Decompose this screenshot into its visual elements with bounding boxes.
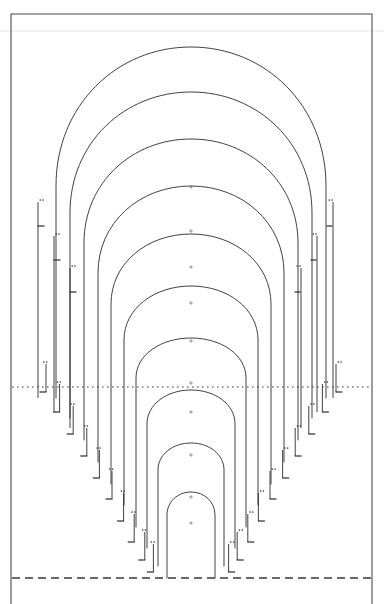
outer-bracket-dot-a-6 (299, 265, 300, 266)
label-dot-b-3-right (313, 403, 314, 404)
outer-bracket-dot-b-1 (42, 199, 43, 200)
outer-bracket-dot-b-3 (58, 233, 59, 234)
label-dot-b-6-left (112, 468, 113, 469)
contour-curve-9 (158, 443, 224, 566)
outer-bracket-dot-a-5 (72, 265, 73, 266)
label-dot-b-9-left (145, 529, 146, 530)
contour-curve-10 (167, 492, 215, 578)
label-dot-b-1-right (340, 361, 341, 362)
axis-plus-marker-9 (189, 495, 193, 499)
label-dot-a-5-left (97, 447, 98, 448)
axis-plus-marker-6 (189, 381, 193, 385)
label-dot-a-4-right (297, 425, 298, 426)
label-dot-a-9-left (142, 529, 143, 530)
contour-plot (0, 0, 384, 604)
label-dot-b-4-left (87, 425, 88, 426)
label-dot-a-7-left (121, 490, 122, 491)
label-dot-b-8-right (252, 511, 253, 512)
axis-plus-marker-3 (189, 265, 193, 269)
axis-plus-marker-5 (189, 339, 193, 343)
outer-bracket-dot-b-6 (297, 265, 298, 266)
label-dot-b-1-left (46, 361, 47, 362)
figure-canvas (0, 0, 384, 604)
axis-plus-marker-8 (189, 453, 193, 457)
label-dot-a-8-right (249, 511, 250, 512)
label-dot-b-7-right (263, 490, 264, 491)
label-dot-b-2-left (60, 381, 61, 382)
contour-curve-5 (111, 234, 271, 484)
frame-border (11, 14, 372, 604)
label-dot-b-5-left (99, 447, 100, 448)
outer-bracket-dot-b-4 (313, 233, 314, 234)
label-dot-b-10-right (233, 541, 234, 542)
label-dot-b-6-right (274, 468, 275, 469)
label-dot-a-3-left (70, 403, 71, 404)
label-dot-a-1-right (338, 361, 339, 362)
outer-bracket-dot-a-1 (40, 199, 41, 200)
outer-bracket-dot-a-2 (331, 199, 332, 200)
label-dot-a-10-left (151, 541, 152, 542)
axis-plus-marker-4 (189, 301, 193, 305)
label-dot-a-3-right (310, 403, 311, 404)
plot-frame (11, 14, 372, 604)
outer-bracket-dot-a-3 (56, 233, 57, 234)
label-dot-a-2-left (57, 381, 58, 382)
label-dot-b-9-right (242, 529, 243, 530)
leg-tick-group (38, 199, 343, 572)
label-dot-a-2-right (324, 381, 325, 382)
axis-plus-marker-2 (189, 229, 193, 233)
label-dot-a-8-left (131, 511, 132, 512)
outer-bracket-dot-a-4 (315, 233, 316, 234)
contour-curve-2 (70, 92, 312, 418)
label-dot-a-9-right (239, 529, 240, 530)
axis-plus-marker-10 (189, 521, 193, 525)
label-dot-b-3-left (73, 403, 74, 404)
outer-bracket-dot-b-5 (74, 265, 75, 266)
label-dot-b-5-right (287, 447, 288, 448)
label-dot-a-6-left (109, 468, 110, 469)
label-dot-b-2-right (327, 381, 328, 382)
contour-curve-3 (84, 139, 298, 440)
contour-curve-4 (98, 186, 284, 462)
center-axis-markers (189, 185, 193, 525)
label-dot-a-5-right (284, 447, 285, 448)
label-dot-b-7-left (124, 490, 125, 491)
label-dot-b-10-left (153, 541, 154, 542)
axis-plus-marker-7 (189, 410, 193, 414)
reference-line-group (12, 387, 371, 578)
outer-bracket-dot-b-2 (329, 199, 330, 200)
label-dot-a-10-right (230, 541, 231, 542)
contour-curve-6 (124, 286, 258, 505)
label-dot-b-8-left (134, 511, 135, 512)
label-dot-a-7-right (260, 490, 261, 491)
contour-curve-1 (56, 47, 326, 398)
label-dot-a-4-left (84, 425, 85, 426)
label-dot-a-1-left (43, 361, 44, 362)
label-dot-a-6-right (272, 468, 273, 469)
